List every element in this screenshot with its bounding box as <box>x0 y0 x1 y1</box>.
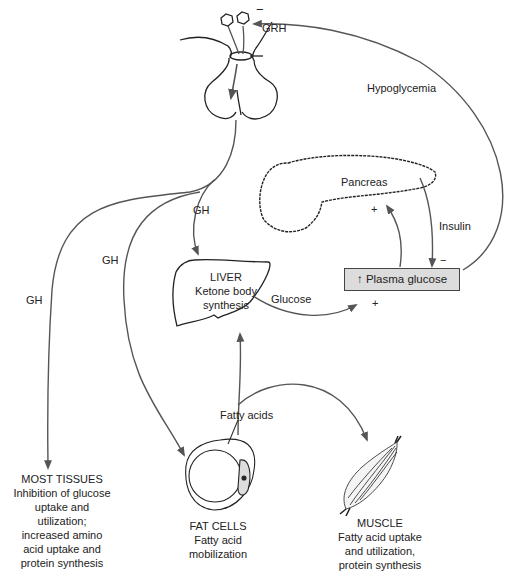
glucose-to-pancreas-arrow <box>387 206 401 267</box>
muscle-icon <box>340 436 401 516</box>
fat-cells-title: FAT CELLS <box>178 519 258 533</box>
muscle-line: and utilization, <box>328 544 432 558</box>
plasma-glucose-box: ↑ Plasma glucose <box>344 268 460 291</box>
gh-release-arrow <box>231 64 237 98</box>
grh-feedback-sign: − <box>256 3 264 16</box>
grh-label: GRH <box>262 22 286 35</box>
muscle-title: MUSCLE <box>328 516 432 530</box>
pancreas-label: Pancreas <box>341 176 387 189</box>
fat-cell-link-line <box>228 420 238 444</box>
most-tissues-line: utilization; <box>6 514 118 528</box>
gh-regulation-diagram: GRH − Hypoglycemia GH GH GH Pancreas + I… <box>0 0 519 581</box>
pancreas-icon <box>260 155 436 231</box>
gh-liver-label: GH <box>193 204 210 217</box>
most-tissues-line: uptake and <box>6 500 118 514</box>
insulin-label: Insulin <box>439 220 471 233</box>
fat-cells-text: FAT CELLS Fatty acid mobilization <box>178 519 258 561</box>
insulin-sign: − <box>440 254 446 267</box>
most-tissues-line: Inhibition of glucose <box>6 486 118 500</box>
fat-cells-line: Fatty acid <box>178 533 258 547</box>
fat-cells-line: mobilization <box>178 547 258 561</box>
increase-arrow-icon: ↑ <box>357 273 363 285</box>
liver-line1: Ketone body <box>186 284 266 298</box>
muscle-line: Fatty acid uptake <box>328 530 432 544</box>
glucose-label: Glucose <box>271 293 311 306</box>
most-tissues-line: acid uptake and <box>6 542 118 556</box>
muscle-line: protein synthesis <box>328 558 432 572</box>
hypoglycemia-feedback-arrow <box>254 24 503 270</box>
liver-text: LIVER Ketone body synthesis <box>186 270 266 312</box>
insulin-arrow <box>420 178 433 266</box>
pancreas-stim-sign: + <box>371 203 377 216</box>
most-tissues-line: increased amino <box>6 528 118 542</box>
hypoglycemia-label: Hypoglycemia <box>367 82 436 95</box>
gh-fat-label: GH <box>102 254 119 267</box>
fat-cell-icon <box>186 439 255 510</box>
liver-line2: synthesis <box>186 298 266 312</box>
fatty-acids-label: Fatty acids <box>220 409 273 422</box>
gh-tissues-label: GH <box>26 294 43 307</box>
most-tissues-text: MOST TISSUES Inhibition of glucose uptak… <box>6 472 118 570</box>
liver-title: LIVER <box>186 270 266 284</box>
muscle-text: MUSCLE Fatty acid uptake and utilization… <box>328 516 432 572</box>
gh-to-liver-arrow <box>194 180 214 254</box>
plasma-glucose-input-sign: + <box>372 297 378 310</box>
most-tissues-title: MOST TISSUES <box>6 472 118 486</box>
plasma-glucose-label: Plasma glucose <box>366 273 447 285</box>
most-tissues-line: protein synthesis <box>6 556 118 570</box>
